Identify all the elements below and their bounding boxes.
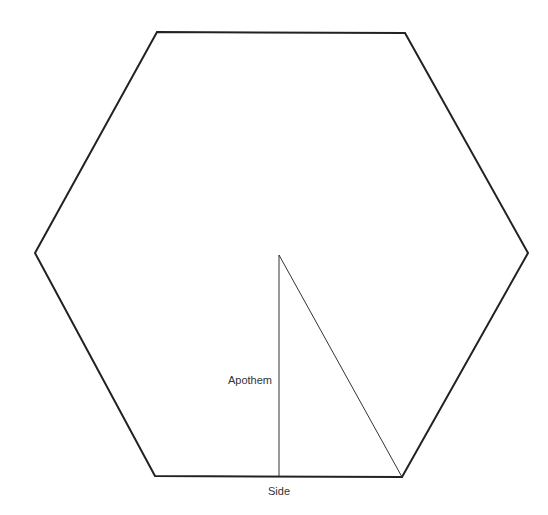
- side-label: Side: [268, 485, 290, 497]
- hexagon-outline: [35, 32, 528, 477]
- radius-line: [279, 255, 402, 477]
- hexagon-diagram: Apothem Side: [0, 0, 548, 515]
- apothem-label: Apothem: [228, 374, 272, 386]
